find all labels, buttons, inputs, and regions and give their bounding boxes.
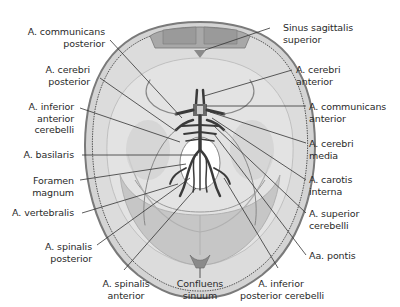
label-sinus-sagittalis-superior: Sinus sagittalis superior [283, 22, 353, 45]
label-a-spinalis-anterior: A. spinalis anterior [96, 278, 156, 301]
label-confluens-sinuum: Confluens sinuum [170, 278, 230, 301]
label-a-inferior-posterior-cerebelli: A. inferior posterior cerebelli [240, 278, 322, 301]
label-a-communicans-anterior: A. communicans anterior [309, 101, 386, 124]
label-a-vertebralis: A. vertebralis [12, 207, 74, 219]
label-aa-pontis: Aa. pontis [309, 250, 356, 262]
label-a-spinalis-posterior: A. spinalis posterior [45, 241, 92, 264]
label-a-cerebri-posterior: A. cerebri posterior [45, 64, 90, 87]
label-a-carotis-interna: A. carotis interna [309, 174, 352, 197]
label-a-inferior-anterior-cerebelli: A. inferior anterior cerebelli [29, 101, 74, 136]
label-a-superior-cerebelli: A. superior cerebelli [309, 208, 359, 231]
label-a-cerebri-anterior: A. cerebri anterior [296, 64, 341, 87]
label-a-cerebri-media: A. cerebri media [309, 138, 354, 161]
label-foramen-magnum: Foramen magnum [32, 175, 74, 198]
label-a-basilaris: A. basilaris [23, 149, 74, 161]
label-a-communicans-posterior: A. communicans posterior [28, 26, 105, 49]
